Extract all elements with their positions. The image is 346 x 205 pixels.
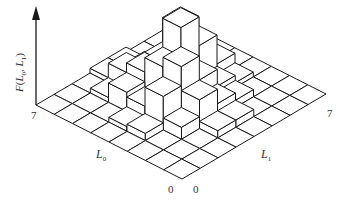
histogram-3d-diagram [0, 0, 346, 205]
l1-min-tick: 0 [193, 184, 199, 195]
l1-max-tick: 7 [327, 108, 333, 119]
l0-max-tick: 7 [31, 110, 37, 121]
l0-axis-label: L0 [96, 148, 106, 163]
z-axis-label: F(L0, L1) [14, 53, 28, 92]
z-axis-arrowhead-icon [32, 6, 40, 20]
z-axis [32, 6, 40, 105]
l0-min-tick: 0 [168, 184, 174, 195]
l1-axis-label: L1 [261, 148, 271, 163]
histogram-bars [36, 7, 326, 179]
